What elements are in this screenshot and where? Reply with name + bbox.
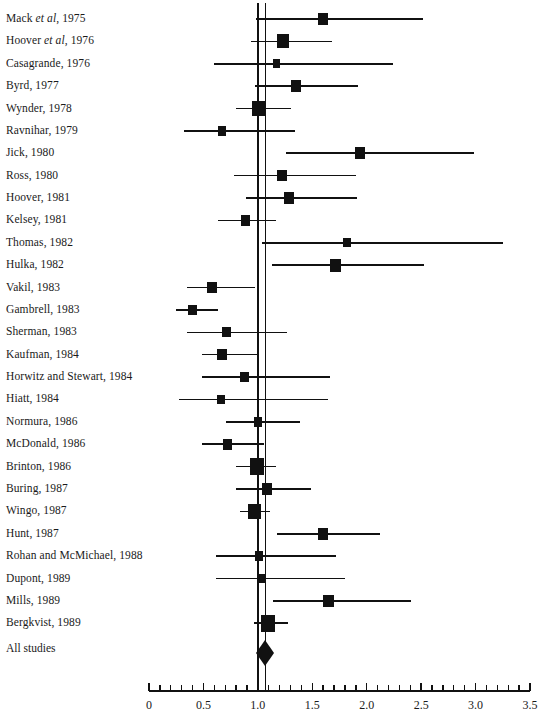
axis-tick-minor	[410, 685, 411, 690]
effect-marker	[318, 528, 329, 540]
x-axis-line	[149, 690, 530, 692]
effect-marker	[318, 13, 328, 24]
summary-diamond	[256, 640, 274, 666]
axis-tick-major	[312, 683, 313, 690]
axis-tick-major	[257, 683, 258, 690]
axis-tick-minor	[290, 685, 291, 690]
confidence-interval-line	[187, 332, 287, 334]
confidence-interval-line	[236, 488, 311, 490]
confidence-interval-line	[262, 242, 503, 244]
axis-tick-label: 1.0	[233, 698, 283, 713]
study-label: Kelsey, 1981	[6, 213, 67, 225]
axis-tick-minor	[159, 685, 160, 690]
all-studies-label: All studies	[6, 642, 56, 654]
study-label: Gambrell, 1983	[6, 303, 80, 315]
effect-marker	[207, 282, 216, 293]
study-label: Hulka, 1982	[6, 258, 64, 270]
effect-marker	[218, 126, 226, 136]
axis-tick-minor	[442, 685, 443, 690]
axis-tick-minor	[355, 685, 356, 690]
axis-tick-minor	[192, 685, 193, 690]
study-label: Ravnihar, 1979	[6, 124, 78, 136]
confidence-interval-line	[202, 443, 264, 445]
effect-marker	[217, 395, 225, 404]
study-label: Buring, 1987	[6, 482, 68, 494]
effect-marker	[355, 147, 365, 159]
axis-tick-minor	[377, 685, 378, 690]
effect-marker	[248, 504, 261, 519]
confidence-interval-line	[272, 264, 424, 266]
confidence-interval-line	[214, 63, 393, 65]
study-label: Dupont, 1989	[6, 572, 70, 584]
axis-tick-minor	[333, 685, 334, 690]
axis-tick-label: 3.0	[451, 698, 501, 713]
axis-tick-minor	[225, 685, 226, 690]
axis-tick-label: 3.5	[505, 698, 544, 713]
forest-plot: Mack et al, 1975Hoover et al, 1976Casagr…	[0, 0, 544, 725]
axis-tick-minor	[464, 685, 465, 690]
axis-tick-minor	[453, 685, 454, 690]
study-label: Normura, 1986	[6, 415, 78, 427]
effect-marker	[252, 101, 265, 117]
confidence-interval-line	[184, 130, 295, 132]
confidence-interval-line	[256, 18, 424, 20]
effect-marker	[284, 192, 294, 204]
axis-tick-minor	[399, 685, 400, 690]
confidence-interval-line	[255, 85, 358, 87]
effect-marker	[223, 439, 232, 450]
axis-tick-label: 2.5	[396, 698, 446, 713]
axis-tick-major	[475, 683, 476, 690]
axis-tick-minor	[235, 685, 236, 690]
axis-tick-major	[366, 683, 367, 690]
axis-tick-minor	[322, 685, 323, 690]
study-label: Jick, 1980	[6, 146, 54, 158]
study-label: Byrd, 1977	[6, 79, 59, 91]
confidence-interval-line	[286, 152, 474, 154]
axis-tick-minor	[518, 685, 519, 690]
effect-marker	[188, 305, 197, 316]
effect-marker	[291, 80, 301, 92]
axis-tick-major	[420, 683, 421, 690]
effect-marker	[277, 34, 289, 48]
axis-tick-label: 2.0	[342, 698, 392, 713]
axis-tick-minor	[431, 685, 432, 690]
axis-tick-major	[529, 683, 530, 690]
effect-marker	[257, 574, 265, 583]
study-label: McDonald, 1986	[6, 437, 85, 449]
study-label: Hoover, 1981	[6, 191, 70, 203]
confidence-interval-line	[234, 175, 356, 177]
study-label: Hunt, 1987	[6, 527, 59, 539]
axis-tick-minor	[508, 685, 509, 690]
axis-tick-label: 1.5	[287, 698, 337, 713]
confidence-interval-line	[216, 555, 336, 557]
study-label: Mills, 1989	[6, 594, 60, 606]
study-label: Hoover et al, 1976	[6, 34, 94, 46]
effect-marker	[222, 327, 231, 337]
study-label: Casagrande, 1976	[6, 57, 90, 69]
effect-marker	[343, 238, 350, 247]
axis-tick-minor	[246, 685, 247, 690]
confidence-interval-line	[277, 533, 379, 535]
confidence-interval-line	[202, 354, 256, 356]
effect-marker	[330, 259, 341, 272]
effect-marker	[262, 483, 272, 495]
effect-marker	[273, 59, 281, 68]
effect-marker	[254, 417, 263, 427]
axis-tick-minor	[301, 685, 302, 690]
axis-tick-label: 0.5	[178, 698, 228, 713]
effect-marker	[277, 170, 287, 182]
confidence-interval-line	[251, 41, 332, 43]
axis-tick-minor	[214, 685, 215, 690]
study-label: Vakil, 1983	[6, 281, 60, 293]
study-label: Mack et al, 1975	[6, 12, 86, 24]
axis-tick-label: 0	[124, 698, 174, 713]
axis-tick-minor	[268, 685, 269, 690]
axis-tick-minor	[486, 685, 487, 690]
effect-marker	[323, 595, 333, 607]
study-label: Rohan and McMichael, 1988	[6, 549, 143, 561]
effect-marker	[250, 458, 264, 475]
study-label: Horwitz and Stewart, 1984	[6, 370, 132, 382]
axis-tick-minor	[170, 685, 171, 690]
study-label: Ross, 1980	[6, 169, 58, 181]
study-label: Hiatt, 1984	[6, 392, 59, 404]
